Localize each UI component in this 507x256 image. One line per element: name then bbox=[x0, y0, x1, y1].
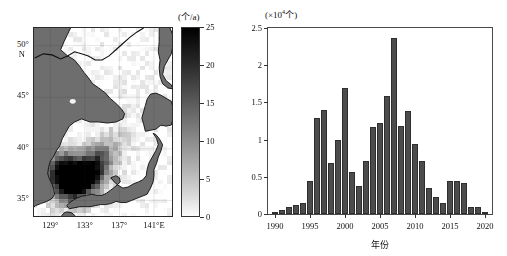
x-tick-label-1995: 1995 bbox=[302, 221, 319, 231]
y-tick-label-2.5: 2.5 bbox=[247, 23, 262, 33]
bar-1995 bbox=[307, 181, 312, 214]
bar-2012 bbox=[426, 188, 431, 214]
bar-chart-unit-title: (×104个) bbox=[265, 8, 297, 21]
x-tick-label-1990: 1990 bbox=[267, 221, 284, 231]
colorbar-tick-label-15: 15 bbox=[206, 98, 215, 108]
bar-2011 bbox=[419, 161, 424, 214]
bar-1991 bbox=[279, 210, 284, 214]
y-tick-label-2: 2 bbox=[247, 60, 262, 70]
x-tick-2010 bbox=[415, 214, 416, 218]
bar-2001 bbox=[349, 172, 354, 214]
map-heatmap-canvas bbox=[33, 27, 173, 217]
bar-2016 bbox=[454, 181, 459, 214]
colorbar-tick-0 bbox=[200, 217, 204, 218]
x-tick-2005 bbox=[380, 214, 381, 218]
map-plot-area bbox=[33, 27, 173, 217]
lat-label-35: 35° bbox=[1, 194, 29, 203]
bar-1992 bbox=[286, 207, 291, 214]
colorbar: 0510152025 bbox=[181, 27, 241, 222]
bar-1993 bbox=[293, 205, 298, 214]
x-tick-label-2010: 2010 bbox=[407, 221, 424, 231]
bar-series bbox=[268, 28, 492, 214]
bar-2000 bbox=[342, 88, 347, 214]
bar-2017 bbox=[461, 183, 466, 214]
colorbar-tick-label-20: 20 bbox=[206, 60, 215, 70]
bar-2003 bbox=[363, 161, 368, 214]
colorbar-tick-label-0: 0 bbox=[206, 212, 210, 222]
colorbar-tick-label-5: 5 bbox=[206, 174, 210, 184]
y-tick-label-1.5: 1.5 bbox=[247, 97, 262, 107]
x-tick-1995 bbox=[310, 214, 311, 218]
bar-2005 bbox=[377, 123, 382, 215]
x-tick-2020 bbox=[485, 214, 486, 218]
x-tick-1990 bbox=[275, 214, 276, 218]
lat-label-45: 45° bbox=[1, 91, 29, 100]
colorbar-tick-20 bbox=[200, 65, 204, 66]
colorbar-tick-label-10: 10 bbox=[206, 136, 215, 146]
colorbar-tick-15 bbox=[200, 103, 204, 104]
lat-label-40: 40° bbox=[1, 143, 29, 152]
bar-2010 bbox=[412, 144, 417, 214]
colorbar-tick-10 bbox=[200, 141, 204, 142]
bar-chart-x-axis-label: 年份 bbox=[267, 238, 493, 251]
y-tick-1.5 bbox=[264, 102, 268, 103]
x-tick-label-2000: 2000 bbox=[337, 221, 354, 231]
bar-1998 bbox=[328, 163, 333, 214]
bar-2008 bbox=[398, 126, 403, 214]
lat-label-50: 50° bbox=[1, 40, 29, 49]
bar-2006 bbox=[384, 96, 389, 214]
figure-root: (个/a) 50°N45°40°35° 129°133°137°141°E 05… bbox=[0, 0, 507, 256]
y-tick-0.5 bbox=[264, 177, 268, 178]
colorbar-gradient bbox=[181, 27, 200, 217]
bar-2015 bbox=[447, 181, 452, 214]
colorbar-tick-25 bbox=[200, 27, 204, 28]
bar-chart-axes bbox=[267, 27, 493, 215]
colorbar-title: (个/a) bbox=[178, 10, 200, 23]
bar-1999 bbox=[335, 140, 340, 214]
map-panel: (个/a) 50°N45°40°35° 129°133°137°141°E 05… bbox=[0, 0, 247, 256]
y-tick-0 bbox=[264, 214, 268, 215]
x-tick-2015 bbox=[450, 214, 451, 218]
bar-2009 bbox=[405, 111, 410, 214]
y-tick-2.5 bbox=[264, 28, 268, 29]
x-tick-2000 bbox=[345, 214, 346, 218]
y-tick-2 bbox=[264, 65, 268, 66]
colorbar-tick-5 bbox=[200, 179, 204, 180]
x-tick-label-2005: 2005 bbox=[372, 221, 389, 231]
unit-exponent: 4 bbox=[282, 9, 285, 15]
bar-1996 bbox=[314, 118, 319, 214]
bar-2007 bbox=[391, 38, 396, 214]
x-tick-label-2015: 2015 bbox=[442, 221, 459, 231]
y-tick-label-0.5: 0.5 bbox=[247, 172, 262, 182]
colorbar-tick-label-25: 25 bbox=[206, 22, 215, 32]
y-tick-label-0: 0 bbox=[247, 209, 262, 219]
y-tick-1 bbox=[264, 140, 268, 141]
y-tick-label-1: 1 bbox=[247, 135, 262, 145]
bar-1994 bbox=[300, 203, 305, 214]
lon-label-141: 141°E bbox=[134, 221, 174, 230]
bar-chart-panel: (×104个) 00.511.522.5 1990199520002005201… bbox=[247, 0, 507, 256]
bar-2002 bbox=[356, 186, 361, 214]
bar-2013 bbox=[433, 197, 438, 214]
x-tick-label-2020: 2020 bbox=[477, 221, 494, 231]
lat-hemisphere-label: N bbox=[1, 50, 25, 59]
bar-2014 bbox=[440, 203, 445, 214]
bar-1997 bbox=[321, 110, 326, 214]
bar-2019 bbox=[475, 207, 480, 214]
bar-2004 bbox=[370, 127, 375, 214]
bar-2018 bbox=[468, 207, 473, 214]
